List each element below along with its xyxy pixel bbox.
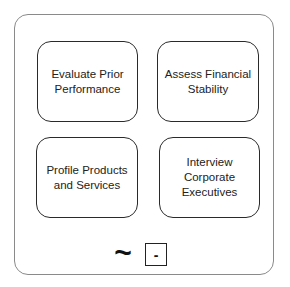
- collapse-button[interactable]: -: [145, 243, 167, 266]
- card-label: Evaluate Prior Performance: [40, 67, 136, 97]
- card-profile-products-and-services[interactable]: Profile Products and Services: [36, 137, 138, 218]
- card-label: Interview Corporate Executives: [162, 155, 258, 200]
- tilde-icon[interactable]: ~: [111, 240, 135, 266]
- card-evaluate-prior-performance[interactable]: Evaluate Prior Performance: [37, 41, 138, 122]
- card-interview-corporate-executives[interactable]: Interview Corporate Executives: [159, 137, 260, 218]
- card-assess-financial-stability[interactable]: Assess Financial Stability: [157, 41, 259, 122]
- card-label: Assess Financial Stability: [160, 67, 256, 97]
- card-label: Profile Products and Services: [39, 163, 135, 193]
